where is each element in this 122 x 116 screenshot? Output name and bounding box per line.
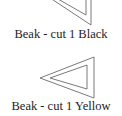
pattern-piece-black: Beak - cut 1 Black xyxy=(0,0,122,44)
beak-triangle-icon xyxy=(0,56,122,100)
piece-label: Beak - cut 1 Black xyxy=(0,27,122,41)
pattern-piece-yellow: Beak - cut 1 Yellow xyxy=(0,56,122,116)
piece-label: Beak - cut 1 Yellow xyxy=(0,99,122,113)
beak-triangle-icon xyxy=(0,0,122,28)
